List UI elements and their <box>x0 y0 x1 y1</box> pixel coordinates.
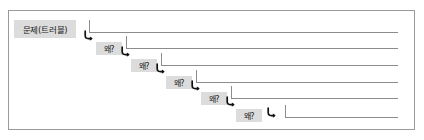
connector-horizontal-3 <box>196 82 398 83</box>
connector-vertical-5 <box>285 105 286 117</box>
why-label-2: 왜? <box>139 60 150 71</box>
root-problem-chip[interactable]: 문제(트러블) <box>14 20 76 38</box>
connector-horizontal-2 <box>161 65 398 66</box>
why-label-1: 왜? <box>104 43 115 54</box>
corner-down-right-arrow-icon-4 <box>225 96 236 108</box>
why-chip-1[interactable]: 왜? <box>96 42 122 55</box>
connector-horizontal-4 <box>231 98 398 99</box>
why-label-3: 왜? <box>174 77 185 88</box>
why-chip-2[interactable]: 왜? <box>131 59 157 72</box>
corner-down-right-arrow-icon-3 <box>190 80 201 92</box>
why-label-4: 왜? <box>209 93 220 104</box>
why-chip-4[interactable]: 왜? <box>201 92 227 105</box>
corner-down-right-arrow-icon-5 <box>266 107 277 119</box>
corner-down-right-arrow-icon-1 <box>120 46 131 58</box>
why-chip-5[interactable]: 왜? <box>236 109 262 122</box>
corner-down-right-arrow-icon-0 <box>83 30 94 42</box>
corner-down-right-arrow-icon-2 <box>155 63 166 75</box>
why-label-5: 왜? <box>244 110 255 121</box>
connector-horizontal-5 <box>285 117 398 118</box>
root-problem-label: 문제(트러블) <box>23 23 68 35</box>
connector-horizontal-0 <box>89 32 398 33</box>
five-whys-diagram: 문제(트러블) 왜? 왜? 왜? <box>0 0 424 140</box>
connector-horizontal-1 <box>126 48 398 49</box>
why-chip-3[interactable]: 왜? <box>166 76 192 89</box>
